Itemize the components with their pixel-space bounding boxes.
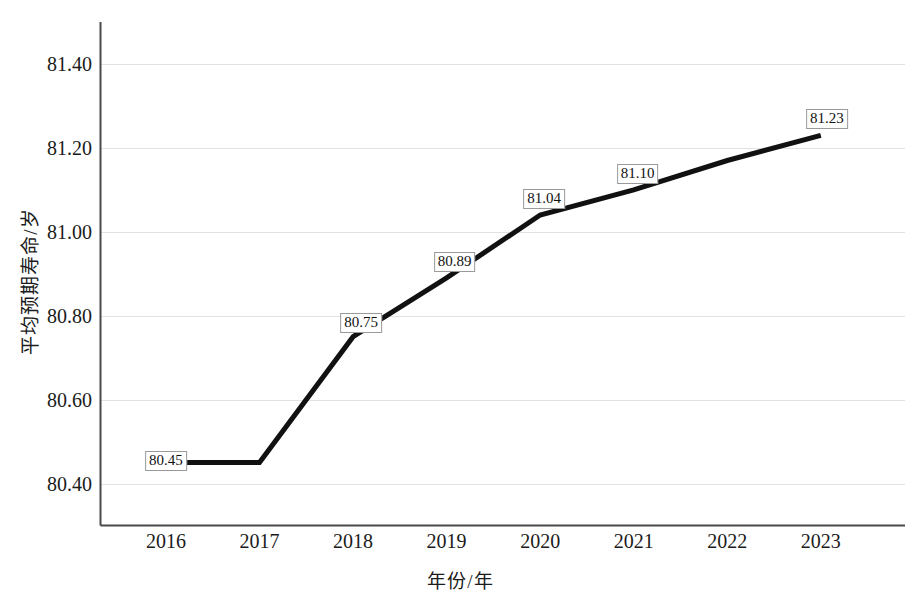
- y-tick-label-81.20: 81.20: [6, 136, 92, 159]
- gridlines: [101, 65, 906, 485]
- x-axis-tick-labels: 20162017201820192020202120222023: [0, 530, 921, 564]
- plot-area: [0, 0, 921, 607]
- data-label-2021: 81.10: [617, 164, 659, 184]
- data-series-line: [166, 135, 821, 462]
- x-tick-label-2017: 2017: [240, 530, 280, 553]
- x-tick-label-2016: 2016: [146, 530, 186, 553]
- data-label-2023: 81.23: [806, 109, 848, 129]
- data-label-2019: 80.89: [434, 252, 476, 272]
- y-axis-title: 平均预期寿命/岁: [15, 162, 42, 402]
- life-expectancy-line-chart: 80.4080.6080.8081.0081.2081.40 201620172…: [0, 0, 921, 607]
- x-tick-label-2021: 2021: [614, 530, 654, 553]
- y-tick-label-80.40: 80.40: [6, 472, 92, 495]
- data-label-2018: 80.75: [340, 313, 382, 333]
- data-label-2020: 81.04: [523, 189, 565, 209]
- x-tick-label-2022: 2022: [707, 530, 747, 553]
- x-tick-label-2018: 2018: [333, 530, 373, 553]
- y-tick-label-81.40: 81.40: [6, 52, 92, 75]
- x-tick-label-2019: 2019: [427, 530, 467, 553]
- x-axis-title: 年份/年: [0, 566, 921, 593]
- x-tick-label-2020: 2020: [520, 530, 560, 553]
- x-tick-label-2023: 2023: [801, 530, 841, 553]
- data-label-2016: 80.45: [145, 451, 187, 471]
